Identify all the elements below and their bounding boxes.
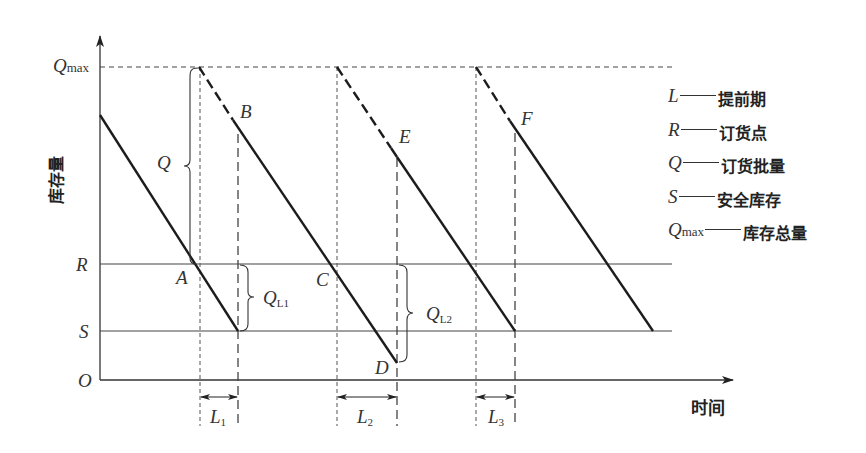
- point-b-label: B: [240, 102, 252, 121]
- receipt-time-guides: [238, 133, 515, 426]
- ql2-brace: [399, 265, 413, 362]
- legend-item-reorder-point: R订货点: [668, 119, 807, 153]
- ql1-brace: [240, 265, 254, 331]
- inventory-level-lines: [100, 67, 653, 363]
- lead-time-1-label: L1: [210, 407, 226, 428]
- qmax-label: Qmax: [53, 56, 89, 75]
- origin-label: O: [78, 371, 92, 390]
- point-d-label: D: [375, 358, 389, 377]
- y-axis-label: 库存量: [43, 156, 67, 204]
- q-brace-label: Q: [157, 153, 171, 172]
- legend-item-max-inventory: Qmax库存总量: [668, 219, 807, 253]
- point-f-label: F: [521, 109, 533, 128]
- q-brace: [184, 68, 198, 264]
- ql1-brace-label: QL1: [263, 288, 289, 309]
- point-a-label: A: [176, 268, 188, 287]
- legend: L提前期 R订货点 Q订货批量 S安全库存 Qmax库存总量: [668, 85, 807, 253]
- x-axis-label: 时间: [691, 400, 725, 417]
- lead-time-3-label: L3: [488, 407, 504, 428]
- point-c-label: C: [316, 270, 329, 289]
- legend-item-lead-time: L提前期: [668, 85, 807, 119]
- lead-time-2-label: L2: [357, 407, 373, 428]
- legend-item-order-quantity: Q订货批量: [668, 152, 807, 186]
- safety-stock-label: S: [79, 322, 89, 341]
- legend-item-safety-stock: S安全库存: [668, 186, 807, 220]
- reorder-point-label: R: [76, 255, 88, 274]
- ql2-brace-label: QL2: [426, 304, 452, 325]
- point-e-label: E: [399, 127, 411, 146]
